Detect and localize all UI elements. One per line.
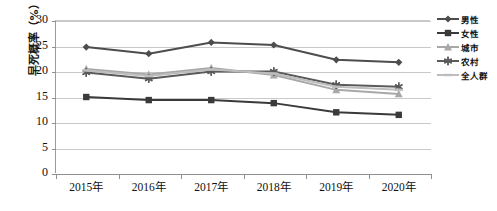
- data-point-diamond: [444, 15, 451, 22]
- legend-marker-star-icon: [437, 55, 459, 67]
- legend-item-0[interactable]: 男性: [437, 12, 495, 25]
- legend-symbol: [440, 55, 456, 67]
- series-overlay: [55, 20, 430, 173]
- y-axis-tick-label: 5: [22, 140, 48, 155]
- data-point-diamond: [83, 43, 90, 50]
- legend-symbol: [440, 41, 456, 53]
- data-point-diamond: [395, 59, 402, 66]
- data-point-square: [146, 97, 152, 103]
- figure-caption: [150, 200, 450, 209]
- data-point-diamond: [208, 39, 215, 46]
- x-axis-tick-label: 2015年: [51, 178, 121, 194]
- legend-symbol: [440, 69, 456, 81]
- chart-figure: 早死概率（%） 051015202530 2015年2016年2017年2018…: [0, 0, 497, 211]
- legend-item-1[interactable]: 女性: [437, 26, 495, 39]
- data-point-square: [396, 112, 402, 118]
- data-point-triangle: [444, 43, 452, 50]
- series-0: [83, 39, 403, 66]
- y-axis-tick-label: 0: [22, 165, 48, 180]
- x-axis-tick-label: 2016年: [114, 178, 184, 194]
- legend-marker-dash-icon: [437, 69, 459, 81]
- legend-label: 男性: [461, 13, 479, 25]
- x-axis-tick-label: 2018年: [239, 178, 309, 194]
- y-axis-tick-label: 30: [22, 12, 48, 27]
- legend-marker-square-icon: [437, 27, 459, 39]
- legend-label: 全人群: [461, 69, 488, 81]
- legend-item-4[interactable]: 全人群: [437, 68, 495, 81]
- data-point-square: [445, 29, 451, 35]
- series-1: [83, 94, 402, 118]
- legend-item-3[interactable]: 农村: [437, 54, 495, 67]
- data-point-square: [83, 94, 89, 100]
- legend-marker-diamond-icon: [437, 13, 459, 25]
- data-point-square: [271, 100, 277, 106]
- data-point-square: [333, 109, 339, 115]
- legend-label: 女性: [461, 27, 479, 39]
- data-point-star: [444, 56, 451, 64]
- legend-label: 农村: [461, 55, 479, 67]
- legend-label: 城市: [461, 41, 479, 53]
- legend-symbol: [440, 27, 456, 39]
- y-axis-tick-label: 25: [22, 38, 48, 53]
- legend-symbol: [440, 13, 456, 25]
- legend-item-2[interactable]: 城市: [437, 40, 495, 53]
- y-axis-tick-label: 10: [22, 114, 48, 129]
- series-line: [86, 42, 399, 62]
- chart-legend: 男性女性城市农村全人群: [437, 12, 495, 82]
- y-axis-tick-label: 20: [22, 63, 48, 78]
- x-axis-tick-label: 2019年: [301, 178, 371, 194]
- x-axis-tick-label: 2017年: [176, 178, 246, 194]
- data-point-diamond: [145, 50, 152, 57]
- y-axis-tick-label: 15: [22, 89, 48, 104]
- data-point-diamond: [270, 41, 277, 48]
- data-point-square: [208, 97, 214, 103]
- data-point-diamond: [333, 56, 340, 63]
- legend-marker-triangle-icon: [437, 41, 459, 53]
- series-2: [82, 64, 403, 97]
- series-line: [86, 97, 399, 115]
- x-axis-tick-label: 2020年: [364, 178, 434, 194]
